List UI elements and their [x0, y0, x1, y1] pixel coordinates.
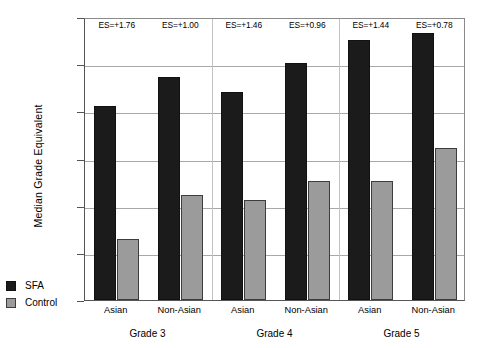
gridline [85, 161, 464, 162]
legend-label: Control [25, 297, 57, 308]
y-axis-tick-mark [77, 112, 84, 113]
plot-area: ES=+1.76ES=+1.00ES=+1.46ES=+0.96ES=+1.44… [84, 18, 465, 301]
grade-group-label: Grade 4 [211, 328, 338, 339]
effect-size-label: ES=+0.78 [403, 20, 467, 30]
effect-size-label: ES=+1.46 [212, 20, 276, 30]
grade-group-label: Grade 5 [338, 328, 465, 339]
effect-size-label: ES=+1.76 [85, 20, 149, 30]
y-axis-tick-mark [77, 207, 84, 208]
y-axis-tick-mark [77, 160, 84, 161]
bar-control [371, 181, 393, 300]
legend-label: SFA [25, 280, 44, 291]
group-separator [212, 19, 213, 300]
gridline [85, 113, 464, 114]
category-label: Asian [84, 305, 148, 315]
y-axis-tick-mark [77, 65, 84, 66]
category-label: Asian [338, 305, 402, 315]
y-axis-tick-mark [77, 18, 84, 19]
category-label: Asian [211, 305, 275, 315]
y-axis-title: Median Grade Equivalent [32, 56, 44, 276]
bar-sfa [158, 77, 180, 300]
group-separator [339, 19, 340, 300]
gridline [85, 208, 464, 209]
bar-sfa [412, 33, 434, 300]
bar-sfa [285, 63, 307, 300]
legend-item: SFA [6, 280, 80, 291]
legend-swatch-icon [6, 281, 16, 291]
grade-group-label: Grade 3 [84, 328, 211, 339]
legend: SFAControl [6, 280, 80, 314]
bar-chart-figure: Median Grade Equivalent 1234567 ES=+1.76… [0, 0, 485, 348]
effect-size-label: ES=+1.00 [149, 20, 213, 30]
bar-control [117, 239, 139, 300]
category-label: Non-Asian [148, 305, 212, 315]
bar-sfa [221, 92, 243, 300]
category-label: Non-Asian [402, 305, 466, 315]
bar-sfa [94, 106, 116, 300]
bar-sfa [348, 40, 370, 300]
bar-control [435, 148, 457, 300]
effect-size-label: ES=+0.96 [276, 20, 340, 30]
legend-swatch-icon [6, 298, 16, 308]
bar-control [244, 200, 266, 300]
bar-control [308, 181, 330, 300]
gridline [85, 66, 464, 67]
gridline [85, 255, 464, 256]
bar-control [181, 195, 203, 300]
legend-item: Control [6, 297, 80, 308]
category-label: Non-Asian [275, 305, 339, 315]
effect-size-label: ES=+1.44 [339, 20, 403, 30]
y-axis-tick-mark [77, 254, 84, 255]
